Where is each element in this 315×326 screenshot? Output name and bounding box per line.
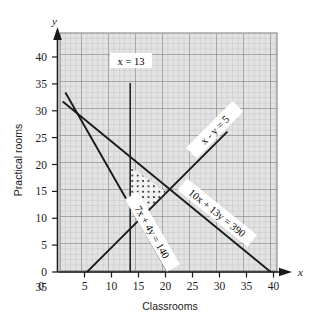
x-axis-ticks — [85, 272, 274, 278]
graph-figure: · ·· ···· ·· ·· — [0, 0, 315, 326]
x-axis-symbol: x — [297, 266, 303, 278]
x-axis-arrow — [279, 268, 292, 277]
x-tick-label-5: 5 — [82, 280, 88, 292]
y-tick-label-20: 20 — [36, 159, 48, 171]
x-tick-label-0: 0 — [38, 280, 44, 292]
y-axis-ticks — [52, 57, 58, 272]
label-x-equals-13-text: x = 13 — [118, 56, 145, 67]
y-tick-label-25: 25 — [36, 132, 48, 144]
scan-artifact: · ·· ···· ·· ·· — [52, 4, 86, 9]
y-tick-label-35: 35 — [36, 78, 48, 90]
y-tick-label-10: 10 — [36, 212, 48, 224]
y-tick-label-0: 0 — [41, 266, 47, 278]
x-tick-label-35: 35 — [241, 280, 253, 292]
x-tick-label-40: 40 — [268, 280, 280, 292]
x-tick-label-25: 25 — [187, 280, 199, 292]
label-x-equals-13: x = 13 — [110, 53, 152, 68]
x-tick-label-20: 20 — [160, 280, 172, 292]
x-axis-title: Classrooms — [142, 300, 197, 312]
y-tick-label-30: 30 — [36, 105, 48, 117]
linear-programming-graph: 35 0 5 10 15 20 25 30 35 40 0 5 10 15 20… — [0, 0, 315, 326]
x-tick-label-30: 30 — [214, 280, 226, 292]
x-tick-label-10: 10 — [106, 280, 118, 292]
y-tick-label-15: 15 — [36, 185, 48, 197]
y-axis-title: Practical rooms — [12, 124, 24, 196]
y-axis-symbol: y — [51, 15, 57, 27]
y-tick-label-40: 40 — [36, 51, 48, 63]
y-tick-label-5: 5 — [41, 239, 47, 251]
x-tick-label-15: 15 — [133, 280, 145, 292]
